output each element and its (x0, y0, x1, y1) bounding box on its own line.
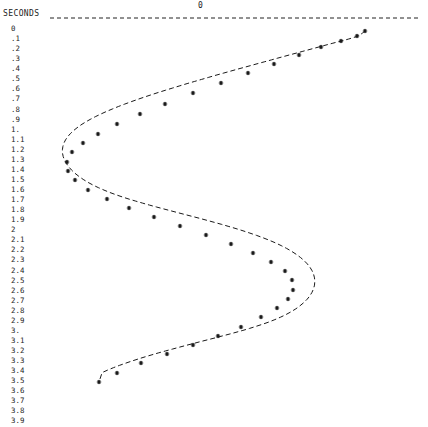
data-point-marker (152, 215, 156, 219)
data-point-marker (259, 315, 263, 319)
curve-path (62, 31, 365, 382)
plot-canvas (0, 0, 428, 427)
data-point-marker (239, 325, 243, 329)
data-point-marker (339, 39, 343, 43)
data-point-marker (269, 260, 273, 264)
data-point-marker (70, 150, 74, 154)
data-point-marker (275, 306, 279, 310)
plot-root: SECONDS 0 0.1.2.3.4.5.6.7.8.91.1.11.21.3… (0, 0, 428, 427)
data-curve (62, 31, 365, 382)
data-point-marker (138, 112, 142, 116)
data-point-marker (127, 206, 131, 210)
data-point-marker (229, 242, 233, 246)
data-point-marker (105, 197, 109, 201)
data-point-marker (96, 132, 100, 136)
data-point-marker (290, 278, 294, 282)
data-point-marker (204, 233, 208, 237)
data-point-marker (272, 62, 276, 66)
data-point-marker (178, 224, 182, 228)
data-point-marker (291, 288, 295, 292)
data-point-marker (66, 169, 70, 173)
data-point-marker (297, 53, 301, 57)
data-point-marker (163, 102, 167, 106)
data-point-marker (191, 91, 195, 95)
data-point-marker (115, 371, 119, 375)
data-point-marker (139, 361, 143, 365)
data-point-marker (165, 352, 169, 356)
data-point-marker (81, 141, 85, 145)
data-point-marker (216, 334, 220, 338)
data-point-marker (65, 160, 69, 164)
data-point-marker (97, 380, 101, 384)
data-point-marker (86, 188, 90, 192)
data-point-markers (65, 29, 367, 384)
data-point-marker (115, 122, 119, 126)
data-point-marker (219, 81, 223, 85)
data-point-marker (73, 178, 77, 182)
data-point-marker (251, 251, 255, 255)
data-point-marker (283, 269, 287, 273)
data-point-marker (286, 297, 290, 301)
data-point-marker (246, 71, 250, 75)
data-point-marker (319, 45, 323, 49)
